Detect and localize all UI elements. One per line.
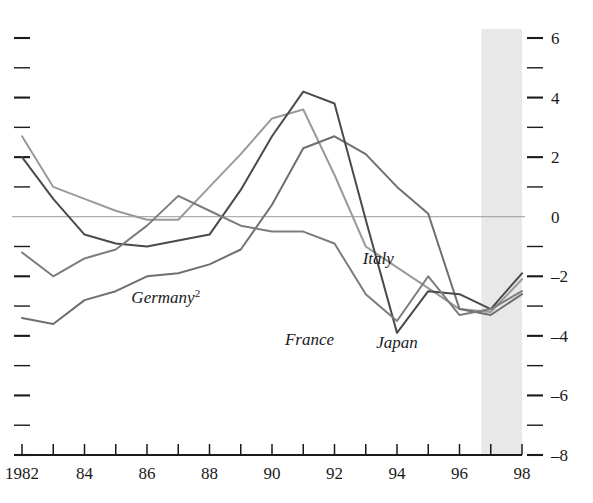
x-axis-label: 94 xyxy=(389,464,407,483)
y-axis-label: –2 xyxy=(550,267,568,286)
y-axis-label: –6 xyxy=(550,386,568,405)
line-chart: 6420–2–4–6–819828486889092949698Germany2… xyxy=(0,0,593,503)
series-annotation-germany: Germany2 xyxy=(131,287,200,307)
series-line-japan xyxy=(22,196,522,321)
y-axis-label: 4 xyxy=(551,89,560,108)
x-axis-label: 88 xyxy=(201,464,218,483)
x-axis-label: 1982 xyxy=(5,464,39,483)
series-annotation-france: France xyxy=(284,330,335,349)
x-axis-label: 96 xyxy=(451,464,468,483)
x-axis-label: 98 xyxy=(514,464,531,483)
x-axis-label: 90 xyxy=(264,464,281,483)
chart-container: 6420–2–4–6–819828486889092949698Germany2… xyxy=(0,0,593,503)
x-axis-label: 92 xyxy=(326,464,343,483)
y-axis-label: –8 xyxy=(550,446,568,465)
y-axis-label: 2 xyxy=(551,148,560,167)
y-axis-label: 6 xyxy=(551,29,560,48)
series-annotation-japan: Japan xyxy=(376,333,418,352)
series-line-germany xyxy=(22,136,522,324)
x-axis-label: 84 xyxy=(76,464,94,483)
y-axis-label: –4 xyxy=(550,327,569,346)
series-line-italy xyxy=(22,109,522,312)
y-axis-label: 0 xyxy=(551,208,560,227)
series-annotation-italy: Italy xyxy=(362,249,395,268)
forecast-shaded-region xyxy=(481,29,522,455)
x-axis-label: 86 xyxy=(139,464,156,483)
